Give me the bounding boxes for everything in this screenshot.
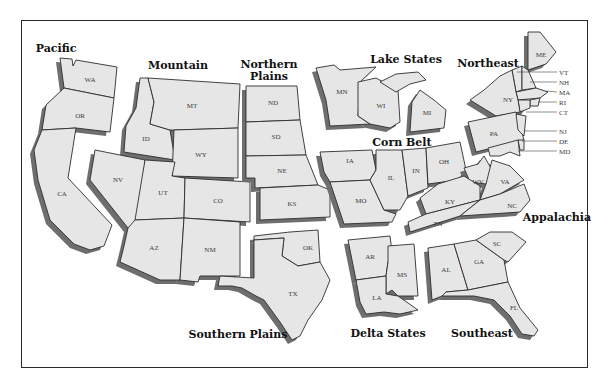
state-ms[interactable] (386, 244, 418, 296)
label-fl: FL (510, 304, 518, 312)
label-tn: TN (433, 220, 442, 228)
region-southeast (424, 232, 538, 340)
label-ms: MS (397, 271, 407, 279)
label-nv: NV (113, 176, 123, 184)
label-sd: SD (272, 133, 281, 141)
label-de: DE (559, 138, 568, 146)
label-tx: TX (288, 290, 297, 298)
label-az: AZ (149, 244, 158, 252)
region-label-northeast: Northeast (457, 57, 520, 70)
label-md: MD (559, 148, 570, 156)
label-vt: VT (559, 69, 569, 77)
region-label-delta-states: Delta States (350, 327, 425, 340)
region-label-southeast: Southeast (451, 327, 514, 340)
label-la: LA (372, 294, 381, 302)
label-co: CO (213, 197, 223, 205)
label-ne: NE (277, 167, 286, 175)
label-id: ID (142, 135, 149, 143)
label-ga: GA (474, 258, 484, 266)
label-nh: NH (559, 79, 569, 87)
label-wa: WA (85, 76, 96, 84)
label-nj: NJ (559, 128, 567, 136)
label-mt: MT (187, 102, 198, 110)
label-ia: IA (346, 157, 353, 165)
label-ri: RI (559, 99, 567, 107)
label-wi: WI (377, 102, 387, 110)
label-mo: MO (355, 197, 366, 205)
label-wy: WY (195, 151, 207, 159)
label-ky: KY (445, 198, 455, 206)
region-label-appalachia: Appalachia (522, 211, 591, 224)
label-nm: NM (204, 246, 216, 254)
region-label-lake-states: Lake States (370, 53, 442, 66)
label-ok: OK (303, 244, 313, 252)
label-ks: KS (288, 200, 297, 208)
label-ct: CT (559, 109, 569, 117)
label-nd: ND (268, 99, 278, 107)
region-northern-plains (242, 86, 330, 224)
region-label-mountain: Mountain (148, 59, 208, 72)
region-label-pacific: Pacific (36, 42, 77, 55)
label-ut: UT (158, 189, 168, 197)
region-label-corn-belt: Corn Belt (372, 136, 432, 149)
label-mn: MN (336, 88, 347, 96)
label-ar: AR (365, 253, 375, 261)
label-sc: SC (493, 240, 502, 248)
label-wv: WV (472, 178, 484, 186)
state-ia[interactable] (320, 150, 376, 182)
label-al: AL (441, 266, 450, 274)
label-il: IL (388, 174, 395, 182)
label-pa: PA (490, 130, 498, 138)
label-nc: NC (507, 202, 517, 210)
label-mi: MI (423, 109, 432, 117)
label-oh: OH (439, 158, 449, 166)
region-label-northern-plains-2: Plains (250, 70, 288, 83)
label-in: IN (412, 167, 419, 175)
label-or: OR (75, 112, 85, 120)
us-regions-map: WA OR CA MT ID WY NV UT CO AZ NM ND SD N… (0, 0, 609, 384)
label-me: ME (536, 51, 547, 59)
region-lake-states (312, 65, 446, 136)
label-ny: NY (503, 96, 513, 104)
label-ca: CA (57, 190, 67, 198)
region-label-southern-plains: Southern Plains (189, 328, 288, 341)
label-va: VA (500, 178, 509, 186)
label-ma: MA (559, 89, 570, 97)
